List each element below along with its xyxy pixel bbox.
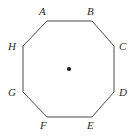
vertex-label-f: F — [40, 120, 47, 131]
vertex-label-g: G — [8, 87, 16, 98]
center-dot — [67, 67, 71, 71]
vertex-label-e: E — [87, 120, 94, 131]
octagon-figure: A B C D E F G H — [0, 0, 137, 137]
vertex-label-b: B — [87, 6, 94, 17]
octagon-diagram — [0, 0, 137, 137]
vertex-label-a: A — [39, 6, 46, 17]
vertex-label-d: D — [119, 87, 127, 98]
vertex-label-h: H — [8, 41, 16, 52]
vertex-label-c: C — [119, 41, 126, 52]
